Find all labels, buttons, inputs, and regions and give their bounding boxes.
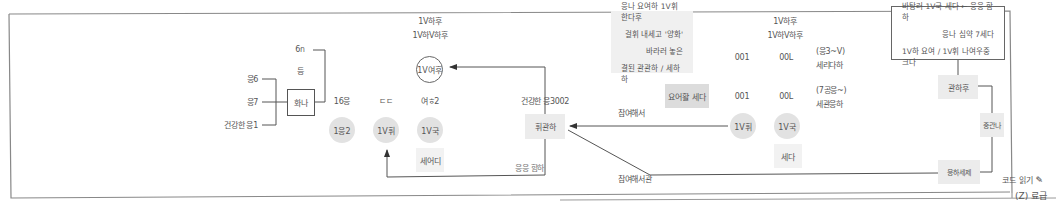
pencil-icon: ✎ [1036,175,1044,185]
edge-label-upper: 참여해서 [618,110,645,118]
col2-top: ㄷㄷ [379,98,392,106]
row1-c2: 세리다하 [816,62,843,70]
right-node-2-label: 1V국 [778,121,796,132]
col1-node: 1응2 [329,117,355,143]
input-label-1: 응6 [247,76,259,84]
row1-b: 00L [779,54,793,62]
row2-c2: 세관응하 [816,101,843,109]
left-process-label: 화나 [294,97,308,108]
col1-node-label: 1응2 [333,125,350,136]
row2-a: 001 [735,93,749,101]
note-box: 응나 요여하 1V휘 한다후 걸휘 내세고 '양화' 바라러 놓은 결된 관관하… [611,11,693,73]
chain-node-1: 관하후 [938,75,978,99]
note-line-4: 결된 관관하 / 세하하 [621,62,683,84]
col1-top: 16응 [334,98,350,106]
chain-node-3: 응하세제 [938,160,980,184]
chain-node-2: 중관나 [980,113,1004,137]
right-node-2: 1V국 [774,113,800,139]
right-top-2: 1V하V하후 [767,32,802,40]
col3-node-label: 1V국 [421,125,439,136]
left-top-label: 6ก [295,46,305,54]
right-top-1: 1V하후 [773,18,796,26]
ring-top-1: 1V하후 [418,18,441,26]
col3-top: 여ㅎ2 [421,98,439,106]
small-box: 요어활 세다 [665,84,709,108]
right-box-label: 세다 [781,151,795,162]
col3-box-label: 세어디 [420,155,441,166]
center-bottom-label: 응응 함하 [515,165,544,173]
ring-node-label: 1V여후 [417,64,442,75]
left-process-box: 화나 [287,89,315,116]
col3-node: 1V국 [417,117,443,143]
legend-line-1: 바탕러 1V국 세다 ← 응응 함하 [902,0,994,22]
note-line-2: 걸휘 내세고 '양화' [625,28,683,39]
diagram-canvas: 응6 응7 건강한 응1 6ก 등 화나 16응 1응2 ㄷㄷ 1V휘 여ㅎ2 … [0,0,1056,210]
small-box-label: 요어활 세다 [668,91,706,102]
row2-b: 00L [779,93,793,101]
chain-node-1-label: 관하후 [948,82,969,93]
center-box: 휘관하 [525,114,565,139]
row1-c1: (응3~V) [816,48,845,56]
right-node-1: 1V휘 [730,113,756,139]
chain-node-3-label: 응하세제 [947,167,971,177]
ring-node: 1V여후 [416,56,443,83]
legend-box: 바탕러 1V국 세다 ← 응응 함하 응나 심약 7세다 1V하 요여 / 1V… [891,6,1005,60]
right-node-1-label: 1V휘 [734,121,752,132]
ring-top-2: 1V하V하후 [412,32,447,40]
edit-code-label: 코드 읽기 [1002,174,1033,185]
input-label-3: 건강한 응1 [224,122,258,130]
legend-line-3: 1V하 요여 / 1V휘 나여우중 크다 [902,45,994,67]
center-box-label: 휘관하 [535,121,556,132]
col2-node: 1V휘 [373,117,399,143]
input-label-2: 응7 [247,99,259,107]
row1-a: 001 [735,54,749,62]
center-top-label: 건강한 응3002 [521,98,569,106]
note-line-3: 바라러 놓은 [646,45,683,56]
legend-line-2: 응나 심약 7세다 [942,28,994,39]
figure-caption: (Z) 료급 [1015,189,1047,202]
edit-code-link[interactable]: 코드 읽기 ✎ [1002,174,1043,185]
note-line-1: 응나 요여하 1V휘 한다후 [621,0,683,22]
chain-node-2-label: 중관나 [983,120,1001,130]
right-box: 세다 [774,144,802,168]
col2-node-label: 1V휘 [377,125,395,136]
col3-box: 세어디 [416,148,444,172]
left-mid-label: 등 [297,68,304,76]
edge-label-lower: 참여해서관 [618,176,652,184]
row2-c1: (7공응~) [816,87,846,95]
